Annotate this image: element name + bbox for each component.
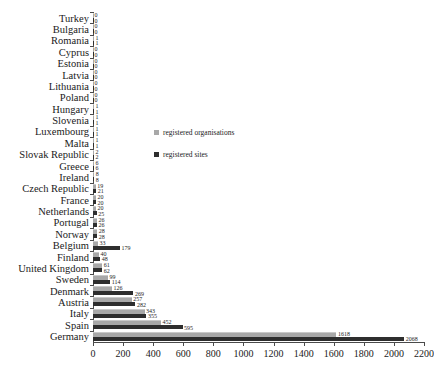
bar-group: 2020 — [93, 194, 424, 205]
chart-row: Latvia00 — [93, 69, 424, 80]
bar-group: 6162 — [93, 262, 424, 273]
bar-value-label-organisations: 33 — [99, 240, 105, 246]
category-label: Slovak Republic — [19, 149, 89, 160]
bar-value-label-organisations: 1618 — [338, 331, 350, 337]
category-label: Estonia — [58, 58, 90, 69]
category-label: Slovenia — [52, 115, 89, 126]
x-axis-tick — [394, 342, 395, 346]
x-axis-tick — [424, 342, 425, 346]
x-axis-tick-label: 400 — [146, 348, 161, 359]
plot-area: Turkey00Bulgaria00Romania11Cyprus00Eston… — [93, 12, 424, 342]
category-label: Poland — [60, 92, 89, 103]
x-axis-tick-label: 0 — [91, 348, 96, 359]
bar-registered-sites — [93, 325, 183, 329]
category-label: Greece — [59, 160, 89, 171]
x-axis-tick-label: 200 — [116, 348, 131, 359]
category-label: Latvia — [62, 69, 89, 80]
bar-registered-sites — [93, 246, 120, 250]
bar-registered-sites — [93, 166, 94, 170]
bar-registered-sites — [93, 302, 135, 306]
bar-group: 00 — [93, 92, 424, 103]
bar-group: 99114 — [93, 274, 424, 285]
x-axis-tick — [93, 342, 94, 346]
x-axis-tick — [364, 342, 365, 346]
x-axis-tick-label: 2000 — [384, 348, 404, 359]
chart-row: United Kingdom6162 — [93, 262, 424, 273]
bar-registered-sites — [93, 109, 94, 113]
chart-row: Norway2828 — [93, 228, 424, 239]
bar-value-label-organisations: 452 — [163, 319, 172, 325]
chart-row: Austria257282 — [93, 296, 424, 307]
bar-registered-sites — [93, 314, 146, 318]
x-axis-tick — [123, 342, 124, 346]
category-label: Czech Republic — [22, 183, 89, 194]
chart-row: Cyprus00 — [93, 46, 424, 57]
chart-row: Netherlands2025 — [93, 205, 424, 216]
category-label: United Kingdom — [18, 262, 89, 273]
chart-row: Hungary11 — [93, 103, 424, 114]
bar-registered-sites — [93, 120, 94, 124]
category-label: Lithuania — [49, 80, 89, 91]
x-axis-tick — [213, 342, 214, 346]
bar-group: 4048 — [93, 251, 424, 262]
bar-group: 1921 — [93, 183, 424, 194]
category-label: Belgium — [53, 240, 89, 251]
bar-registered-sites — [93, 41, 94, 45]
chart-row: Romania11 — [93, 35, 424, 46]
chart-row: Belgium33179 — [93, 240, 424, 251]
chart-row: Germany16182068 — [93, 331, 424, 342]
bar-value-label-organisations: 126 — [113, 285, 122, 291]
chart-row: Estonia00 — [93, 58, 424, 69]
bar-group: 16182068 — [93, 331, 424, 342]
x-axis-tick — [183, 342, 184, 346]
x-axis-tick-label: 2200 — [414, 348, 434, 359]
bar-group: 22 — [93, 149, 424, 160]
chart-row: Slovenia11 — [93, 114, 424, 125]
chart-row: Lithuania00 — [93, 80, 424, 91]
x-axis-tick — [243, 342, 244, 346]
x-axis-tick — [304, 342, 305, 346]
category-label: Italy — [70, 308, 89, 319]
chart-row: Ireland88 — [93, 171, 424, 182]
category-label: Ireland — [59, 171, 89, 182]
chart-row: Greece66 — [93, 160, 424, 171]
bar-registered-sites — [93, 143, 94, 147]
bar-registered-sites — [93, 291, 133, 295]
bar-group: 00 — [93, 80, 424, 91]
legend-item-registered-organisations: registered organisations — [154, 128, 234, 137]
x-axis-tick-label: 1800 — [354, 348, 374, 359]
bar-group: 11 — [93, 114, 424, 125]
x-axis-tick — [274, 342, 275, 346]
bar-group: 00 — [93, 46, 424, 57]
chart-row: Slovak Republic22 — [93, 149, 424, 160]
x-axis-tick-label: 1200 — [264, 348, 284, 359]
bar-group: 11 — [93, 137, 424, 148]
category-label: Bulgaria — [53, 24, 89, 35]
bar-registered-sites — [93, 268, 102, 272]
bar-group: 00 — [93, 12, 424, 23]
bar-group: 343355 — [93, 308, 424, 319]
category-label: Luxembourg — [35, 126, 89, 137]
category-label: Netherlands — [38, 206, 89, 217]
bar-registered-sites — [93, 177, 94, 181]
category-label: Spain — [65, 319, 89, 330]
category-label: Finland — [57, 251, 89, 262]
bar-group: 00 — [93, 58, 424, 69]
category-label: Hungary — [52, 103, 89, 114]
bar-group: 126269 — [93, 285, 424, 296]
chart-row: Turkey00 — [93, 12, 424, 23]
legend-label-organisations: registered organisations — [163, 128, 234, 137]
category-label: France — [60, 194, 89, 205]
category-label: Turkey — [59, 12, 89, 23]
bar-group: 88 — [93, 171, 424, 182]
chart-row: France2020 — [93, 194, 424, 205]
bar-registered-sites — [93, 234, 97, 238]
x-axis-tick-label: 600 — [176, 348, 191, 359]
category-label: Malta — [65, 137, 90, 148]
bar-group: 33179 — [93, 240, 424, 251]
legend-swatch-icon-organisations — [154, 130, 159, 135]
chart-row: Poland00 — [93, 92, 424, 103]
bar-registered-sites — [93, 155, 94, 159]
bar-registered-sites — [93, 337, 404, 341]
x-axis-tick-label: 800 — [206, 348, 221, 359]
